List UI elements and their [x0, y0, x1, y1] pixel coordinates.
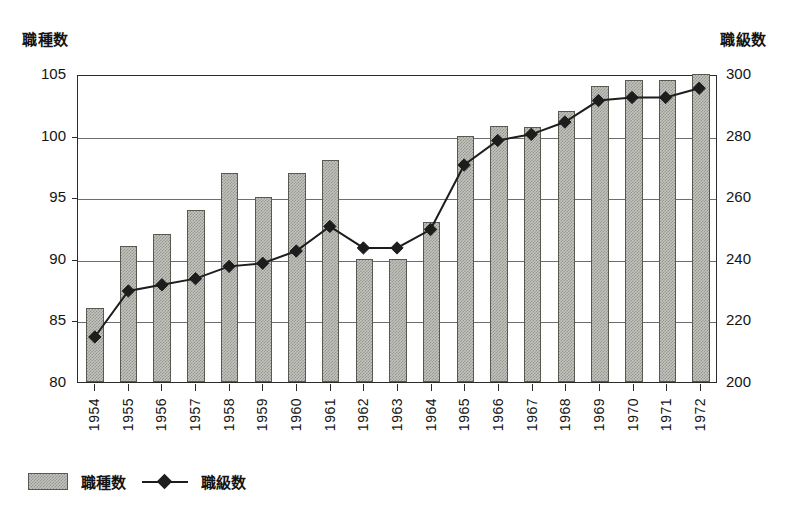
x-axis-tickmark [633, 384, 634, 391]
legend-item-line: 職級数 [142, 471, 246, 492]
x-axis-tickmark [296, 384, 297, 391]
left-axis-tick: 95 [49, 188, 66, 205]
x-axis-label-1954: 1954 [86, 398, 102, 431]
diamond-marker-1962 [357, 242, 369, 254]
left-axis-tick: 100 [41, 127, 66, 144]
legend-label-bar: 職種数 [81, 471, 126, 492]
diamond-marker-1964 [424, 223, 436, 235]
line-series [78, 76, 716, 383]
x-axis-label-1969: 1969 [591, 398, 607, 431]
x-axis-tickmark [431, 384, 432, 391]
diamond-marker-1969 [592, 94, 604, 106]
diamond-marker-1957 [189, 272, 201, 284]
diamond-marker-1968 [559, 116, 571, 128]
legend-item-bar: 職種数 [28, 471, 126, 492]
x-axis-label-1957: 1957 [187, 398, 203, 431]
x-axis-tickmark [94, 384, 95, 391]
diamond-marker-1956 [156, 279, 168, 291]
right-axis-tick: 220 [726, 311, 751, 328]
chart-legend: 職種数 職級数 [28, 471, 246, 492]
right-axis-tick: 260 [726, 188, 751, 205]
diamond-marker-1958 [223, 260, 235, 272]
right-axis-tick: 240 [726, 250, 751, 267]
left-axis-title: 職種数 [22, 28, 69, 49]
chart-root: 職種数 職級数 80859095100105 20022024026028030… [0, 0, 805, 508]
x-axis-tickmark [498, 384, 499, 391]
x-axis-tickmark [128, 384, 129, 391]
x-axis-label-1956: 1956 [153, 398, 169, 431]
x-axis-labels: 1954195519561957195819591960196119621963… [77, 384, 717, 464]
x-axis-tickmark [666, 384, 667, 391]
x-axis-label-1968: 1968 [557, 398, 573, 431]
right-axis-title: 職級数 [720, 28, 767, 49]
x-axis-tickmark [532, 384, 533, 391]
diamond-marker-line-icon [142, 475, 188, 489]
x-axis-label-1962: 1962 [355, 398, 371, 431]
diamond-marker-1972 [693, 82, 705, 94]
right-axis-tick: 280 [726, 127, 751, 144]
x-axis-tickmark [330, 384, 331, 391]
left-axis-tick: 85 [49, 311, 66, 328]
x-axis-tickmark [464, 384, 465, 391]
x-axis-label-1961: 1961 [322, 398, 338, 431]
right-axis-tick: 200 [726, 373, 751, 390]
line-path [95, 88, 699, 337]
x-axis-label-1964: 1964 [423, 398, 439, 431]
x-axis-label-1955: 1955 [120, 398, 136, 431]
diamond-marker-1959 [256, 257, 268, 269]
x-axis-tickmark [565, 384, 566, 391]
diamond-marker-1970 [626, 91, 638, 103]
legend-label-line: 職級数 [201, 471, 246, 492]
x-axis-label-1972: 1972 [692, 398, 708, 431]
x-axis-label-1967: 1967 [524, 398, 540, 431]
plot-area [77, 75, 717, 383]
x-axis-label-1958: 1958 [221, 398, 237, 431]
x-axis-tickmark [161, 384, 162, 391]
x-axis-label-1959: 1959 [254, 398, 270, 431]
right-axis-tick-labels: 200220240260280300 [726, 75, 786, 383]
left-axis-tick: 105 [41, 65, 66, 82]
gray-bar-swatch-icon [28, 473, 68, 490]
left-axis-tick: 90 [49, 250, 66, 267]
x-axis-tickmark [262, 384, 263, 391]
left-axis-tick-labels: 80859095100105 [14, 75, 66, 383]
x-axis-tickmark [599, 384, 600, 391]
left-axis-tick: 80 [49, 373, 66, 390]
x-axis-tickmark [363, 384, 364, 391]
x-axis-label-1970: 1970 [625, 398, 641, 431]
x-axis-label-1966: 1966 [490, 398, 506, 431]
x-axis-tickmark [397, 384, 398, 391]
x-axis-label-1971: 1971 [658, 398, 674, 431]
x-axis-label-1963: 1963 [389, 398, 405, 431]
diamond-marker-1967 [525, 128, 537, 140]
right-axis-tick: 300 [726, 65, 751, 82]
x-axis-tickmark [229, 384, 230, 391]
diamond-marker-1971 [659, 91, 671, 103]
x-axis-tickmark [700, 384, 701, 391]
x-axis-tickmark [195, 384, 196, 391]
x-axis-label-1960: 1960 [288, 398, 304, 431]
diamond-marker-1963 [391, 242, 403, 254]
x-axis-label-1965: 1965 [456, 398, 472, 431]
